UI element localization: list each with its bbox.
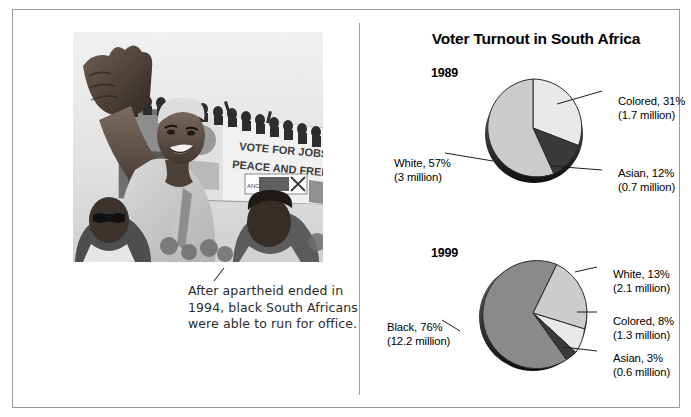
caption-line-1: After apartheid ended in — [188, 283, 343, 298]
callout-1999-white-line2: (2.1 million) — [613, 281, 670, 295]
callout-1999-asian-line2: (0.6 million) — [613, 365, 670, 379]
column-divider — [359, 23, 360, 395]
caption-line-3: were able to run for office. — [188, 316, 357, 331]
callout-1999-white: White, 13% (2.1 million) — [613, 267, 670, 295]
callout-1999-black-line1: Black, 76% — [387, 321, 443, 333]
callout-1999-colored: Colored, 8% (1.3 million) — [613, 314, 674, 342]
callout-1989-colored-line2: (1.7 million) — [618, 108, 685, 122]
callout-1989-white-line1: White, 57% — [394, 157, 451, 169]
callout-1999-black-line2: (12.2 million) — [387, 334, 450, 348]
callout-1989-asian-line2: (0.7 million) — [618, 180, 675, 194]
year-label-1999: 1999 — [431, 246, 458, 260]
chart-title: Voter Turnout in South Africa — [380, 30, 691, 48]
caption-leader-line — [213, 268, 225, 282]
callout-1999-asian-line1: Asian, 3% — [613, 352, 663, 364]
photo-caption: After apartheid ended in 1994, black Sou… — [188, 283, 373, 333]
callout-1999-black: Black, 76% (12.2 million) — [387, 320, 450, 348]
cutoff-text-above-frame — [123, 8, 593, 15]
callout-1989-asian-line1: Asian, 12% — [618, 167, 674, 179]
callout-1989-colored: Colored, 31% (1.7 million) — [618, 94, 685, 122]
mandela-photo-block: VOTE FOR JOBS PEACE AND FREEDOM ANC — [73, 32, 323, 262]
callout-1989-white-line2: (3 million) — [394, 170, 451, 184]
callout-1999-white-line1: White, 13% — [613, 268, 670, 280]
page-frame: VOTE FOR JOBS PEACE AND FREEDOM ANC — [12, 9, 680, 408]
pie-chart-1989 — [475, 68, 595, 188]
callout-1989-colored-line1: Colored, 31% — [618, 95, 685, 107]
callout-1999-colored-line2: (1.3 million) — [613, 328, 674, 342]
year-label-1989: 1989 — [431, 66, 458, 80]
callout-1989-white: White, 57% (3 million) — [394, 156, 451, 184]
callout-1999-asian: Asian, 3% (0.6 million) — [613, 351, 670, 379]
pie-chart-1999 — [469, 248, 601, 380]
caption-line-2: 1994, black South Africans — [188, 300, 358, 315]
callout-1989-asian: Asian, 12% (0.7 million) — [618, 166, 675, 194]
callout-1999-colored-line1: Colored, 8% — [613, 315, 674, 327]
nelson-mandela-raised-fist-rally-photo: VOTE FOR JOBS PEACE AND FREEDOM ANC — [73, 32, 323, 262]
